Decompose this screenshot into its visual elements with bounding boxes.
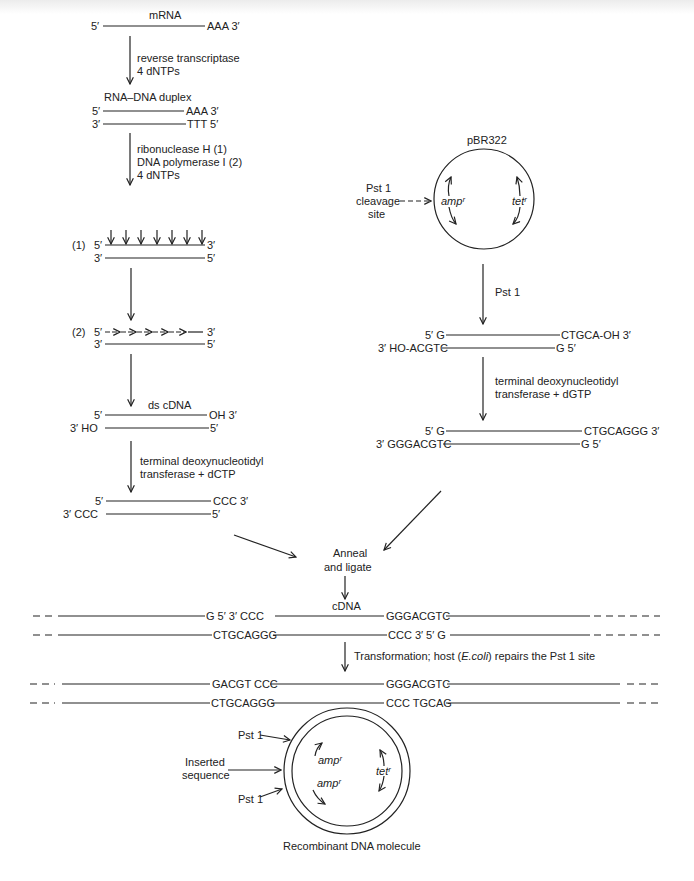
- amp-arrow-up-icon: [448, 177, 451, 196]
- cleavage-site-label-3: site: [368, 208, 385, 220]
- recombinant-caption: Recombinant DNA molecule: [283, 840, 421, 852]
- stage1-bottom-left: 3′: [94, 252, 102, 264]
- step-reverse-transcription: reverse transcriptase 4 dNTPs: [130, 36, 240, 84]
- annealed-bottom-junction-1: CTGCAGGG: [213, 629, 277, 641]
- repaired-top-junction-2: GGGACGTC: [386, 678, 450, 690]
- linear-plasmid: 5′ G CTGCA-OH 3′ 3′ HO-ACGTC G 5′: [378, 329, 631, 354]
- cut-bottom-right: G 5′: [556, 342, 576, 354]
- stage-1-nicking: (1) 5′ 3′ 3′ 5′: [72, 230, 215, 264]
- pst1-bottom-arrow-icon: [260, 789, 282, 797]
- rna-dna-duplex: 5′ AAA 3′ 3′ TTT 5′: [92, 105, 219, 130]
- cut-bottom-left: 3′ HO-ACGTC: [378, 342, 448, 354]
- stage2-bottom-right: 5′: [207, 338, 215, 350]
- ds-cdna-top-right: OH 3′: [209, 409, 237, 421]
- enzyme-label-2: DNA polymerase I (2): [137, 156, 242, 168]
- repaired-top-junction-1: GACGT CCC: [212, 678, 278, 690]
- ds-cdna-label: ds cDNA: [148, 399, 192, 411]
- stage1-top-right: 3′: [207, 239, 215, 251]
- ds-cdna-top-left: 5′: [94, 409, 102, 421]
- amp-arrow-down-icon: [313, 790, 325, 804]
- step-rnase-polymerase: ribonuclease H (1) DNA polymerase I (2) …: [130, 133, 242, 185]
- tet-arrow-up-icon: [380, 750, 384, 766]
- g-tailed-bottom-left: 3′ GGGACGTC: [376, 438, 451, 450]
- tet-gene-label: tetʳ: [512, 195, 527, 207]
- duplex-title: RNA–DNA duplex: [104, 91, 192, 103]
- amp-gene-label: ampʳ: [441, 195, 465, 207]
- cleavage-site-label-1: Pst 1: [366, 182, 391, 194]
- merge-arrow-right-icon: [384, 491, 441, 550]
- duplex-bottom-right: TTT 5′: [187, 118, 218, 130]
- repaired-bottom-junction-2: CCC TGCAG: [386, 697, 452, 709]
- annealed-bottom-junction-2: CCC 3′ 5′ G: [388, 629, 446, 641]
- g-tailed-top-left: 5′ G: [425, 425, 445, 437]
- tet-arrow-down-icon: [379, 776, 384, 791]
- mrna-label: mRNA: [149, 9, 182, 21]
- pst1-label: Pst 1: [495, 286, 520, 298]
- enzyme-label: terminal deoxynucleotidyl: [495, 375, 619, 387]
- stage-number: (2): [72, 326, 85, 338]
- amp-gene-label-top: ampʳ: [318, 754, 342, 766]
- plasmid-pbr322: pBR322 ampʳ tetʳ Pst 1 cleavage site: [356, 134, 534, 249]
- pst1-top-label: Pst 1: [238, 729, 263, 741]
- tet-arrow-down-icon: [513, 207, 520, 224]
- reagent-label: transferase + dGTP: [495, 388, 591, 400]
- cut-top-left: 5′ G: [425, 329, 445, 341]
- plasmid-name: pBR322: [467, 134, 507, 146]
- repaired-molecule: GACGT CCC GGGACGTC CTGCAGGG CCC TGCAG: [30, 678, 660, 709]
- mrna-strand: mRNA 5′ AAA 3′: [91, 9, 240, 32]
- g-tailed-bottom-right: G 5′: [581, 438, 601, 450]
- nick-arrows-icon: [111, 230, 202, 244]
- enzyme-label: terminal deoxynucleotidyl: [140, 455, 264, 467]
- anneal-label: Anneal: [333, 547, 367, 559]
- stage-number: (1): [72, 239, 85, 251]
- mrna-5prime: 5′: [91, 20, 99, 32]
- inserted-label-2: sequence: [182, 769, 230, 781]
- g-tailed-top-right: CTGCAGGG 3′: [584, 425, 659, 437]
- c-tailed-bottom-right: 5′: [212, 508, 220, 520]
- inserted-label-1: Inserted: [185, 756, 225, 768]
- duplex-top-right: AAA 3′: [186, 105, 219, 117]
- stage2-top-left: 5′: [94, 326, 102, 338]
- cdna-c-tailed: 5′ CCC 3′ 3′ CCC 5′: [63, 495, 248, 520]
- enzyme-label: reverse transcriptase: [137, 52, 240, 64]
- annealed-molecule: cDNA G 5′ 3′ CCC GGGACGTC CTGCAGGG CCC 3…: [33, 600, 660, 641]
- recombinant-plasmid: ampʳ ampʳ tetʳ Pst 1 Inserted sequence P…: [182, 708, 421, 852]
- outer-strand-circle: [284, 708, 410, 834]
- duplex-top-left: 5′: [92, 105, 100, 117]
- reagent-label: 4 dNTPs: [137, 65, 180, 77]
- transformation-label: Transformation; host (E.coli) repairs th…: [354, 650, 595, 662]
- enzyme-label-1: ribonuclease H (1): [137, 143, 227, 155]
- annealed-top-junction-2: GGGACGTC: [386, 610, 450, 622]
- c-tailed-top-left: 5′: [95, 495, 103, 507]
- annealed-top-junction-1: G 5′ 3′ CCC: [206, 610, 264, 622]
- c-tailed-top-right: CCC 3′: [213, 495, 248, 507]
- repaired-bottom-junction-1: CTGCAGGG: [211, 697, 275, 709]
- reagent-label: transferase + dCTP: [140, 468, 236, 480]
- step-transformation: Transformation; host (E.coli) repairs th…: [345, 642, 595, 671]
- stage1-bottom-right: 5′: [207, 252, 215, 264]
- duplex-bottom-left: 3′: [92, 118, 100, 130]
- stage1-top-left: 5′: [94, 239, 102, 251]
- pst1-bottom-label: Pst 1: [238, 793, 263, 805]
- amp-arrow-down-icon: [449, 207, 456, 224]
- tet-arrow-up-icon: [517, 177, 520, 196]
- step-dgtp-tailing: terminal deoxynucleotidyl transferase + …: [483, 357, 619, 420]
- stage2-bottom-left: 3′: [94, 338, 102, 350]
- ds-cdna-bottom-left: 3′ HO: [70, 422, 98, 434]
- tet-gene-label: tetʳ: [376, 765, 391, 777]
- amp-gene-label-bottom: ampʳ: [317, 777, 341, 789]
- stage2-top-right: 3′: [207, 326, 215, 338]
- ligate-label: and ligate: [324, 561, 372, 573]
- ds-cdna-bottom-right: 5′: [210, 422, 218, 434]
- stage-2-repair: (2) 5′ 3′ 3′ 5′: [72, 326, 215, 350]
- cdna-cloning-diagram: mRNA 5′ AAA 3′ reverse transcriptase 4 d…: [0, 0, 694, 881]
- mrna-3prime: AAA 3′: [207, 20, 240, 32]
- pst1-top-arrow-icon: [260, 735, 290, 740]
- merge-arrow-left-icon: [234, 535, 296, 557]
- cut-top-right: CTGCA-OH 3′: [561, 329, 631, 341]
- step-pst1-cut: Pst 1: [483, 264, 520, 324]
- plasmid-g-tailed: 5′ G CTGCAGGG 3′ 3′ GGGACGTC G 5′: [376, 425, 659, 450]
- reagent-label: 4 dNTPs: [137, 169, 180, 181]
- step-dctp-tailing: terminal deoxynucleotidyl transferase + …: [131, 441, 264, 492]
- cdna-insert-label: cDNA: [332, 600, 361, 612]
